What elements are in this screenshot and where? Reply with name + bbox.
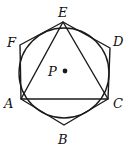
label-C: C bbox=[113, 96, 123, 111]
label-A: A bbox=[3, 96, 13, 111]
label-D: D bbox=[112, 34, 124, 49]
label-B: B bbox=[57, 132, 68, 147]
triangle-ACE bbox=[21, 22, 108, 99]
geometry-diagram: A B C D E F P bbox=[0, 0, 135, 148]
hexagon-ABCDEF bbox=[20, 22, 110, 125]
label-F: F bbox=[6, 35, 17, 50]
label-P: P bbox=[47, 64, 57, 79]
label-E: E bbox=[57, 5, 68, 20]
center-point-P bbox=[63, 69, 68, 74]
